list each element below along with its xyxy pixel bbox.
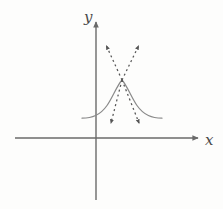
dashed-arrow-down-left-line — [111, 80, 122, 123]
bell-curve — [82, 80, 162, 118]
dashed-arrow-up-right-line — [122, 46, 139, 80]
dashed-arrow-down-right-line — [122, 80, 139, 123]
dashed-arrow-up-left-line — [107, 46, 123, 80]
x-axis-label: x — [205, 131, 214, 149]
graph-figure: y x — [0, 0, 223, 209]
y-axis-label: y — [83, 8, 93, 26]
figure-canvas: y x — [0, 0, 223, 209]
